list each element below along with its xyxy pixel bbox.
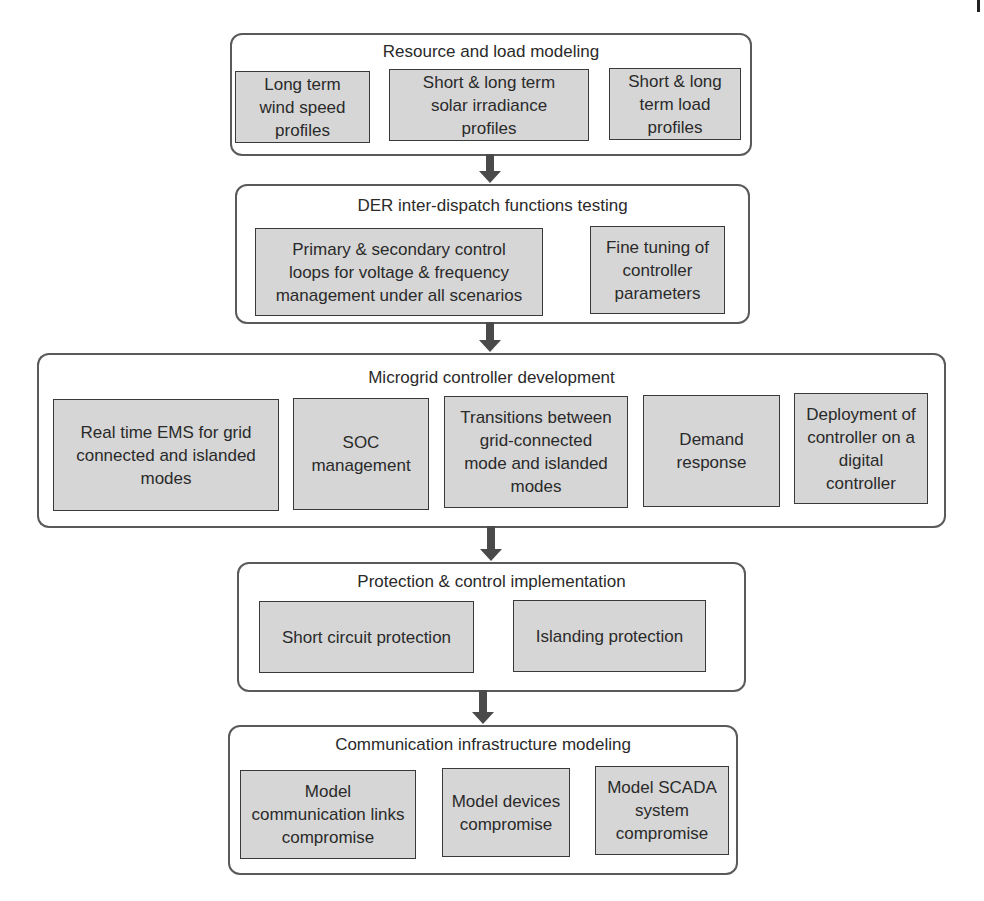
- stage-title: DER inter-dispatch functions testing: [237, 196, 748, 216]
- item-fine-tuning-controller-parameters: Fine tuning of controller parameters: [590, 226, 725, 314]
- stage-title: Protection & control implementation: [239, 572, 744, 592]
- item-short-circuit-protection: Short circuit protection: [259, 601, 474, 673]
- page-edge-mark: [977, 0, 980, 12]
- item-model-communication-links-compromise: Model communication links compromise: [240, 770, 416, 859]
- arrow-down-icon: [487, 526, 495, 552]
- item-solar-irradiance-profiles: Short & long term solar irradiance profi…: [389, 69, 589, 141]
- item-islanding-protection: Islanding protection: [513, 600, 706, 672]
- item-demand-response: Demand response: [643, 395, 780, 507]
- arrow-down-icon: [486, 322, 494, 343]
- item-load-profiles: Short & long term load profiles: [609, 68, 741, 140]
- arrow-down-icon: [486, 154, 494, 174]
- arrow-down-icon: [479, 690, 487, 715]
- stage-title: Communication infrastructure modeling: [230, 735, 736, 755]
- item-model-devices-compromise: Model devices compromise: [442, 768, 570, 857]
- item-real-time-ems: Real time EMS for grid connected and isl…: [53, 399, 279, 511]
- item-primary-secondary-control-loops: Primary & secondary control loops for vo…: [255, 228, 543, 316]
- item-model-scada-system-compromise: Model SCADA system compromise: [595, 766, 729, 855]
- stage-title: Microgrid controller development: [37, 368, 946, 388]
- stage-title: Resource and load modeling: [232, 42, 750, 62]
- item-soc-management: SOC management: [293, 398, 429, 510]
- item-deployment-digital-controller: Deployment of controller on a digital co…: [794, 393, 928, 504]
- item-wind-speed-profiles: Long term wind speed profiles: [235, 71, 370, 143]
- item-transitions-grid-connected-islanded: Transitions between grid-connected mode …: [444, 396, 628, 508]
